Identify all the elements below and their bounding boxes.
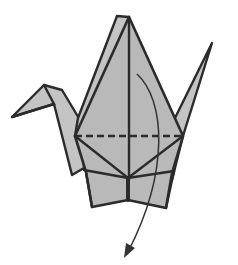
- crane-neck-head: [12, 85, 84, 175]
- origami-crane-diagram: [0, 0, 238, 265]
- arrow-head-icon: [124, 243, 135, 258]
- crane-body: [75, 17, 183, 208]
